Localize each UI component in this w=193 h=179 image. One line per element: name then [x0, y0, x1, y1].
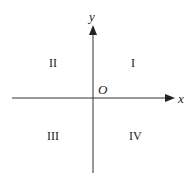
- y-axis-label: y: [89, 10, 95, 23]
- y-axis-arrowhead: [89, 25, 97, 35]
- x-axis-arrowhead: [165, 94, 175, 102]
- quadrant-iv-label: IV: [129, 130, 142, 142]
- quadrant-ii-label: II: [49, 57, 57, 69]
- quadrant-iii-label: III: [47, 130, 59, 142]
- x-axis-label: x: [178, 92, 184, 105]
- axes-graphic: [0, 0, 193, 179]
- origin-label: O: [98, 83, 107, 96]
- quadrant-i-label: I: [131, 57, 135, 69]
- coordinate-plane: y x O I II III IV: [0, 0, 193, 179]
